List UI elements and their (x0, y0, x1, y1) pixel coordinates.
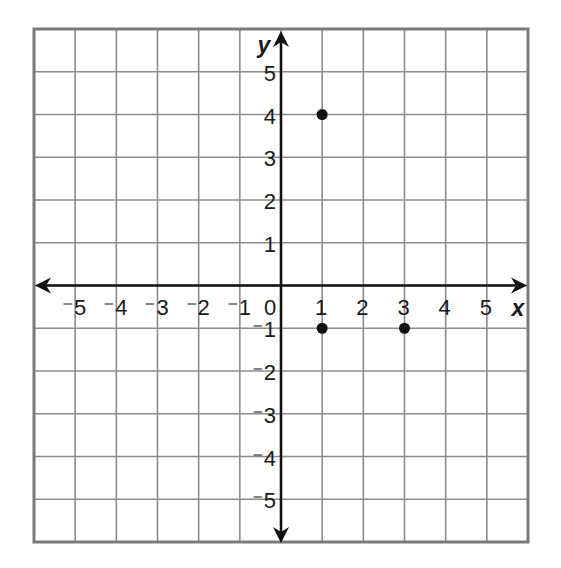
y-tick-label: ⁻1 (252, 317, 276, 342)
y-tick-labels: ⁻5⁻4⁻3⁻2⁻112345 (252, 61, 276, 514)
data-point (317, 109, 328, 120)
x-tick-label: ⁻4 (103, 295, 127, 320)
x-tick-label: ⁻1 (227, 295, 251, 320)
y-tick-label: 5 (264, 61, 276, 86)
x-tick-label: 5 (480, 295, 492, 320)
x-tick-label: 2 (356, 295, 368, 320)
x-tick-label: 4 (439, 295, 451, 320)
x-axis-label: x (510, 295, 526, 321)
x-tick-label: ⁻3 (144, 295, 168, 320)
y-tick-label: ⁻2 (252, 360, 276, 385)
y-tick-label: 1 (264, 232, 276, 257)
y-tick-label: ⁻3 (252, 403, 276, 428)
y-tick-label: 2 (264, 189, 276, 214)
x-tick-label: 3 (397, 295, 409, 320)
x-tick-label: 0 (264, 295, 276, 320)
y-tick-label: 4 (264, 104, 276, 129)
x-tick-label: ⁻2 (186, 295, 210, 320)
y-axis-label: y (257, 32, 272, 58)
data-point (399, 323, 410, 334)
coordinate-plane: ⁻5⁻4⁻3⁻2⁻1012345 ⁻5⁻4⁻3⁻2⁻112345 x y (0, 0, 561, 568)
axes (35, 31, 527, 543)
y-tick-label: 3 (264, 146, 276, 171)
x-tick-label: 1 (315, 295, 327, 320)
x-tick-labels: ⁻5⁻4⁻3⁻2⁻1012345 (62, 295, 492, 320)
y-tick-label: ⁻5 (252, 488, 276, 513)
data-point (317, 323, 328, 334)
x-tick-label: ⁻5 (62, 295, 86, 320)
y-tick-label: ⁻4 (252, 446, 276, 471)
